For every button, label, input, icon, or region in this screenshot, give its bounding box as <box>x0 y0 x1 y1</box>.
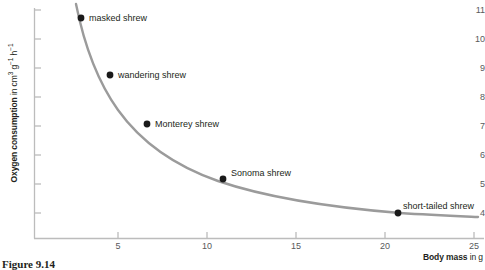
y-tick-label: 9 <box>454 64 485 73</box>
data-point <box>395 210 402 217</box>
y-tick-label: 8 <box>454 93 485 102</box>
trend-curve <box>76 4 478 217</box>
point-label-wandering-shrew: wandering shrew <box>118 71 186 80</box>
y-axis-title-units: in cm3 g−1 h−1 <box>9 44 19 98</box>
x-tick-label: 20 <box>380 242 390 251</box>
x-tick-label: 10 <box>202 242 212 251</box>
x-tick-label: 5 <box>115 242 120 251</box>
point-label-monterey-shrew: Monterey shrew <box>155 120 219 129</box>
y-axis-ticks <box>35 10 42 213</box>
x-tick-label: 15 <box>291 242 301 251</box>
y-tick-label: 10 <box>454 35 485 44</box>
y-tick-label: 7 <box>454 122 485 131</box>
point-label-masked-shrew: masked shrew <box>89 14 147 23</box>
data-point <box>220 176 227 183</box>
y-tick-label: 6 <box>454 151 485 160</box>
point-label-short-tailed-shrew: short-tailed shrew <box>403 202 474 211</box>
data-point <box>107 72 114 79</box>
y-tick-label: 11 <box>454 6 485 15</box>
data-points <box>78 15 402 217</box>
x-axis-title-units: in g <box>467 252 483 262</box>
point-label-sonoma-shrew: Sonoma shrew <box>231 169 291 178</box>
x-tick-label: 25 <box>469 242 479 251</box>
data-point <box>144 121 151 128</box>
x-axis-ticks <box>118 232 474 239</box>
x-axis-title: Body mass in g <box>423 252 483 262</box>
x-axis-title-bold: Body mass <box>423 252 467 262</box>
y-axis-title: Oxygen consumption in cm3 g−1 h−1 <box>9 18 19 208</box>
y-axis-title-bold: Oxygen consumption <box>9 97 19 182</box>
data-point <box>78 15 85 22</box>
y-tick-label: 5 <box>454 180 485 189</box>
figure-caption: Figure 9.14 <box>2 258 55 270</box>
